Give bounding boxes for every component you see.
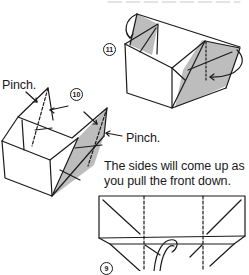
instruction-line-2: you pull the front down.	[104, 174, 231, 188]
step-9-badge: 9	[100, 262, 113, 275]
pinch-left-label: Pinch.	[2, 78, 36, 92]
instruction-line-1: The sides will come up as	[104, 159, 245, 173]
pinch-right-label: Pinch.	[126, 131, 160, 145]
step-10-badge: 10	[70, 88, 83, 101]
step-9-figure	[99, 196, 245, 271]
step-11-badge: 11	[103, 43, 116, 56]
step-11-figure	[125, 14, 242, 108]
